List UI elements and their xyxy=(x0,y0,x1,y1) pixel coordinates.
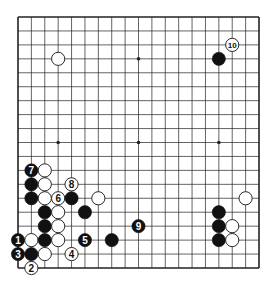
white-stone xyxy=(52,234,65,247)
black-stone xyxy=(25,247,38,260)
black-stone-move-1: 1 xyxy=(11,234,24,247)
white-stone xyxy=(38,247,51,260)
black-stone xyxy=(212,234,225,247)
black-stone xyxy=(78,206,91,219)
move-number-label: 2 xyxy=(29,263,35,274)
white-stone xyxy=(38,178,51,191)
go-board-diagram: 10786915342 xyxy=(0,0,275,285)
white-stone-move-8: 8 xyxy=(65,178,78,191)
move-number-label: 8 xyxy=(69,179,75,190)
white-stone xyxy=(52,206,65,219)
white-stone-move-10: 10 xyxy=(226,38,239,51)
black-stone xyxy=(25,192,38,205)
white-stone xyxy=(52,52,65,65)
black-stone xyxy=(25,178,38,191)
star-point xyxy=(137,141,141,145)
white-stone xyxy=(25,234,38,247)
black-stone-move-7: 7 xyxy=(25,164,38,177)
star-point xyxy=(137,57,141,61)
black-stone xyxy=(38,206,51,219)
white-stone xyxy=(239,192,252,205)
star-point xyxy=(217,141,221,145)
move-number-label: 4 xyxy=(69,249,75,260)
white-stone-move-6: 6 xyxy=(52,192,65,205)
move-number-label: 6 xyxy=(55,193,61,204)
move-number-label: 9 xyxy=(136,221,142,232)
black-stone-move-3: 3 xyxy=(11,247,24,260)
black-stone xyxy=(38,220,51,233)
white-stone xyxy=(52,220,65,233)
black-stone xyxy=(212,52,225,65)
white-stone xyxy=(38,164,51,177)
black-stone xyxy=(38,234,51,247)
move-number-label: 5 xyxy=(82,235,88,246)
white-stone xyxy=(226,220,239,233)
white-stone-move-2: 2 xyxy=(25,261,38,274)
black-stone xyxy=(212,206,225,219)
move-number-label: 1 xyxy=(15,235,21,246)
white-stone xyxy=(92,192,105,205)
star-point xyxy=(56,141,60,145)
go-board: 10786915342 xyxy=(0,0,275,285)
white-stone xyxy=(38,192,51,205)
black-stone xyxy=(105,234,118,247)
black-stone-move-9: 9 xyxy=(132,220,145,233)
black-stone xyxy=(65,192,78,205)
black-stone-move-5: 5 xyxy=(78,234,91,247)
black-stone xyxy=(212,220,225,233)
white-stone xyxy=(226,234,239,247)
move-number-label: 3 xyxy=(15,249,21,260)
move-number-label: 10 xyxy=(228,41,237,50)
move-number-label: 7 xyxy=(29,165,35,176)
white-stone-move-4: 4 xyxy=(65,247,78,260)
